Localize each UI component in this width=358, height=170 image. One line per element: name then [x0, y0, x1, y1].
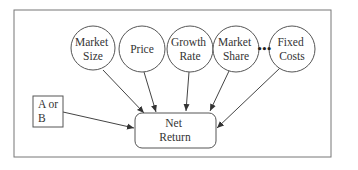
node-growth-rate — [167, 26, 213, 72]
label-growth-rate-2: Rate — [179, 50, 200, 62]
label-growth-rate-1: Growth — [171, 36, 206, 48]
edge-market-share — [210, 71, 229, 111]
label-decision-2: B — [38, 112, 46, 124]
svg-text:Price: Price — [130, 43, 154, 55]
label-net-return-2: Return — [159, 131, 191, 143]
label-net-return-1: Net — [165, 117, 182, 129]
label-market-share-2: Share — [223, 50, 249, 62]
label-market-share-1: Market — [218, 36, 252, 48]
label-fixed-costs-2: Costs — [279, 50, 305, 62]
node-market-share — [213, 26, 259, 72]
label-market-size-1: Market — [75, 36, 109, 48]
influence-diagram: Market Size Price Growth Rate Market Sha… — [0, 0, 358, 170]
label-market-size-2: Size — [83, 50, 103, 62]
label-decision-1: A or — [38, 98, 58, 110]
edge-growth-rate — [186, 72, 189, 111]
edge-price — [144, 72, 156, 112]
label-price: Price — [130, 43, 154, 55]
label-fixed-costs-1: Fixed — [277, 36, 303, 48]
ellipsis-icon: ••• — [257, 44, 272, 54]
node-fixed-costs — [269, 26, 315, 72]
edge-decision — [63, 112, 134, 128]
node-market-size — [71, 26, 115, 70]
edge-market-size — [103, 70, 144, 113]
